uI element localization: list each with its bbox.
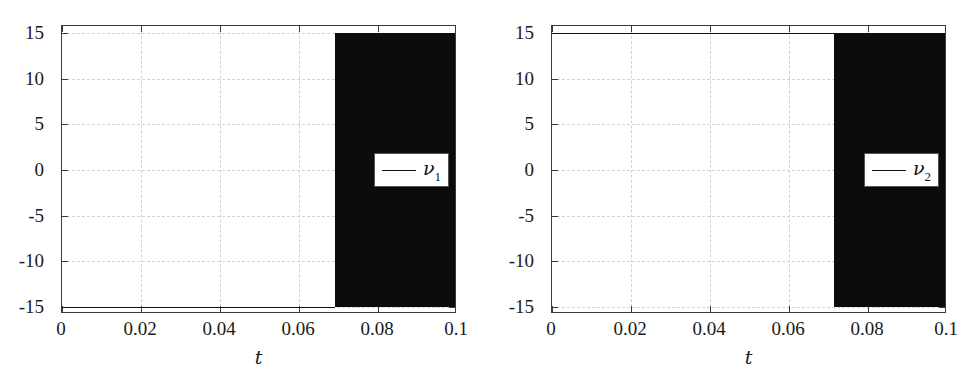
gridline-vertical [631,26,632,312]
y-axis-tick [62,79,68,80]
y-axis-tick [62,216,68,217]
y-axis-tick-label: -5 [0,206,53,225]
legend[interactable]: ν2 [864,153,939,187]
x-axis-tick-mirror [710,26,711,32]
y-axis-tick-label: -5 [481,206,543,225]
x-axis-tick-label: 0.06 [281,319,314,338]
y-axis-tick-label: -10 [0,251,53,270]
x-axis-tick [868,306,869,312]
y-axis-tick [62,170,68,171]
y-axis-tick [62,124,68,125]
gridline-vertical [789,26,790,312]
x-axis-title-text-left: t [255,346,263,368]
y-axis-tick-label: -15 [481,297,543,316]
y-axis-tick-mirror [939,307,945,308]
y-tick-labels-right: 151050-5-10-15 [490,0,543,383]
x-axis-tick-label: 0.04 [692,319,725,338]
legend-label: ν1 [423,159,441,182]
x-axis-tick-mirror [141,26,142,32]
y-axis-tick [552,124,558,125]
y-axis-tick-mirror [449,307,455,308]
plot-area-right: ν2 [551,25,946,313]
y-axis-tick [552,216,558,217]
x-axis-tick-label: 0.08 [360,319,393,338]
y-axis-tick-label: 10 [0,69,53,88]
legend-line-swatch [872,170,906,171]
y-axis-tick-label: -10 [481,251,543,270]
x-axis-tick-label: 0 [546,319,556,338]
x-axis-tick-mirror [789,26,790,32]
y-axis-tick [552,170,558,171]
y-axis-tick-label: 15 [0,23,53,42]
y-axis-tick-label: 15 [481,23,543,42]
x-axis-tick-label: 0 [56,319,66,338]
gridline-vertical [220,26,221,312]
y-axis-tick-label: 10 [481,69,543,88]
x-axis-tick-label: 0.04 [202,319,235,338]
x-axis-tick-label: 0.02 [613,319,646,338]
gridline-vertical [141,26,142,312]
signal-constant-segment [552,33,834,34]
plot-area-left: ν1 [61,25,456,313]
x-axis-tick-label: 0.1 [934,319,958,338]
gridline-vertical [710,26,711,312]
x-axis-title-right: t [551,348,946,367]
legend-label: ν2 [913,159,931,182]
x-axis-tick [710,306,711,312]
y-axis-tick [62,33,68,34]
y-axis-tick [552,261,558,262]
y-axis-tick-label: 0 [0,160,53,179]
y-axis-tick [552,79,558,80]
x-axis-tick-mirror [62,26,63,32]
x-axis-tick [789,306,790,312]
panel-nu2: 151050-5-10-15 ν2 t 00.020.040.060.080.1 [490,0,980,383]
x-axis-tick-mirror [631,26,632,32]
x-axis-tick-label: 0.08 [850,319,883,338]
x-axis-title-text-right: t [745,346,753,368]
y-axis-tick-label: 5 [0,114,53,133]
gridline-vertical [299,26,300,312]
x-axis-tick-mirror [378,26,379,32]
y-axis-tick [62,261,68,262]
x-axis-tick-mirror [220,26,221,32]
signal-constant-segment [62,307,335,308]
x-axis-tick-mirror [868,26,869,32]
legend[interactable]: ν1 [374,153,449,187]
x-axis-tick-label: 0.06 [771,319,804,338]
x-axis-tick-mirror [552,26,553,32]
x-axis-tick [552,306,553,312]
y-axis-tick-label: 5 [481,114,543,133]
x-axis-tick [378,306,379,312]
x-axis-title-left: t [61,348,456,367]
y-axis-tick-label: 0 [481,160,543,179]
y-axis-tick-label: -15 [0,297,53,316]
x-axis-tick-label: 0.1 [444,319,468,338]
figure-two-panel-control-signals: 151050-5-10-15 ν1 t 00.020.040.060.080.1… [0,0,980,383]
x-axis-tick [631,306,632,312]
x-axis-tick-mirror [299,26,300,32]
x-axis-tick-label: 0.02 [123,319,156,338]
legend-line-swatch [382,170,416,171]
y-tick-labels-left: 151050-5-10-15 [0,0,53,383]
gridline-horizontal [552,307,945,308]
panel-nu1: 151050-5-10-15 ν1 t 00.020.040.060.080.1 [0,0,490,383]
